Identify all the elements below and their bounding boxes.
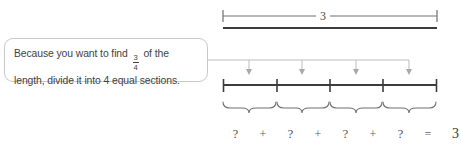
section-arrows [246,69,412,75]
brace-3 [330,102,382,113]
equation-operator-3: + [368,127,379,142]
equation-term-2: ? [285,126,296,142]
diagram-canvas: Because you want to find 3 4 of the leng… [0,0,461,145]
equation-term-1: ? [230,126,241,142]
measure-bracket: 3 [223,9,437,23]
equation-result: 3 [450,126,461,142]
equation-equals: = [423,127,434,142]
divided-number-line [223,79,437,92]
measure-length-label: 3 [320,9,326,23]
arrow-down-icon-2 [299,69,305,75]
arrow-down-icon-3 [353,69,359,75]
equation-term-3: ? [340,126,351,142]
equation-term-4: ? [395,126,406,142]
equation-row: ? + ? + ? + ? = 3 [230,124,461,144]
section-braces [223,102,436,113]
brace-2 [277,102,329,113]
equation-operator-1: + [258,127,269,142]
arrow-down-icon-4 [406,69,412,75]
brace-4 [383,102,436,113]
brace-1 [223,102,276,113]
equation-operator-2: + [313,127,324,142]
callout-connector [208,60,409,69]
arrow-down-icon-1 [246,69,252,75]
